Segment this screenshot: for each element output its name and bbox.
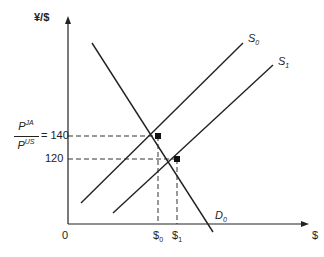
ratio-bar [14,136,39,137]
x-axis-arrow-icon [301,221,309,227]
curve-label-s0: S0 [248,32,259,46]
curve-label-s1: S1 [278,55,289,69]
equilibrium-point-0 [155,133,161,139]
x-tick-q1: $1 [172,229,182,243]
ratio-denominator: PUS [14,138,38,151]
tick-140-label: = 140 [41,129,69,141]
x-tick-q0: $0 [153,229,163,243]
x-axis-label: $ [312,229,318,241]
origin-label: 0 [62,229,68,241]
curve-label-d0: D0 [215,209,227,223]
tick-120-label: 120 [45,152,63,164]
equilibrium-point-1 [174,156,180,162]
y-axis-arrow-icon [65,16,71,24]
y-axis-label: ¥/$ [34,11,49,23]
ratio-numerator: PJA [14,119,38,132]
supply-curve-s1 [113,65,273,213]
supply-curve-s0 [81,43,243,203]
